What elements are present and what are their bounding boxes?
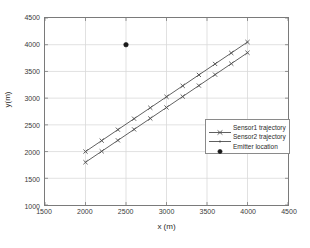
dot-marker [208,132,232,141]
series-marker-x [83,149,87,153]
series-marker-x [229,51,233,55]
series-marker-x [148,116,152,120]
legend-item[interactable]: Emitter location [208,142,286,151]
x-tick-label: 4000 [240,208,256,215]
series-marker-x [181,94,185,98]
x-tick-label: 2500 [118,208,134,215]
series-marker-x [164,95,168,99]
y-axis-label: y(m) [3,80,12,120]
series-marker-x [148,106,152,110]
filled-circle-marker [208,142,232,151]
y-tick-label: 3000 [24,95,40,102]
data-series-layer [45,18,288,205]
y-tick-label: 1500 [24,176,40,183]
series-marker-x [132,127,136,131]
y-tick-label: 3500 [24,68,40,75]
series-marker-x [83,160,87,164]
legend-label: Sensor2 trajectory [232,132,286,141]
chart-legend: Sensor1 trajectorySensor2 trajectoryEmit… [205,119,290,154]
y-tick-label: 4000 [24,41,40,48]
series-marker-x [100,139,104,143]
legend-item[interactable]: Sensor1 trajectory [208,123,286,132]
series-marker-x [213,73,217,77]
x-tick-label: 3000 [159,208,175,215]
series-marker-x [197,84,201,88]
legend-label: Sensor1 trajectory [232,123,286,132]
series-marker-x [229,62,233,66]
chart-figure: 10001500200025003000350040004500 1500200… [0,0,310,248]
series-marker-x [245,40,249,44]
legend-label: Emitter location [232,142,278,151]
series-marker-x [100,149,104,153]
series-marker-x [197,73,201,77]
series-marker-x [116,138,120,142]
emitter-marker [124,42,129,47]
series-marker-x [181,84,185,88]
series-marker-x [213,62,217,66]
x-marker [208,123,232,132]
series-marker-x [116,128,120,132]
x-tick-label: 4500 [281,208,297,215]
y-tick-label: 2500 [24,122,40,129]
plot-area [44,17,289,206]
y-tick-label: 2000 [24,149,40,156]
x-tick-label: 2000 [77,208,93,215]
x-tick-label: 3500 [200,208,216,215]
series-marker-x [132,117,136,121]
x-axis-label: x (m) [44,222,289,231]
series-marker-x [245,51,249,55]
series-marker-x [164,105,168,109]
x-axis-tick-labels: 1500200025003000350040004500 [44,208,289,222]
y-tick-label: 4500 [24,14,40,21]
x-tick-label: 1500 [36,208,52,215]
legend-item[interactable]: Sensor2 trajectory [208,132,286,141]
